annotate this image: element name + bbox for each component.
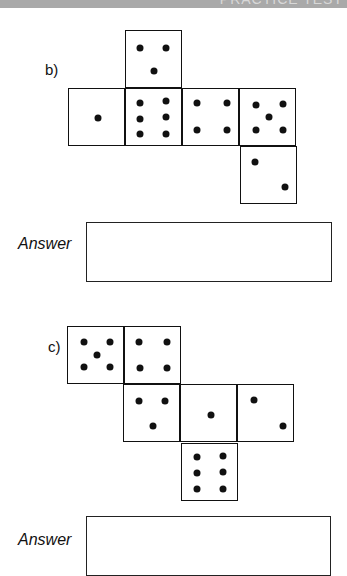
pip — [224, 100, 231, 107]
pip — [266, 114, 273, 121]
answer-label: Answer — [18, 235, 71, 253]
die-face-2 — [237, 384, 294, 442]
pip — [251, 397, 258, 404]
pip — [136, 398, 143, 405]
die-face-5 — [67, 326, 124, 384]
answer-input-b[interactable] — [86, 222, 332, 282]
pip — [194, 100, 201, 107]
pip — [208, 412, 215, 419]
die-face-3 — [123, 384, 180, 442]
pip — [220, 453, 227, 460]
die-face-6 — [125, 88, 182, 146]
pip — [107, 364, 114, 371]
question-label: c) — [48, 338, 61, 355]
die-face-4 — [124, 326, 181, 384]
pip — [194, 454, 201, 461]
pip — [137, 100, 144, 107]
die-face-5 — [239, 88, 296, 146]
pip — [95, 115, 102, 122]
pip — [252, 159, 259, 166]
die-face-3 — [125, 30, 182, 88]
pip — [163, 114, 170, 121]
pip — [194, 127, 201, 134]
page-header-band: PRACTICE TEST — [0, 0, 347, 8]
pip — [162, 398, 169, 405]
pip — [136, 339, 143, 346]
pip — [220, 486, 227, 493]
pip — [94, 352, 101, 359]
die-face-1 — [180, 384, 237, 442]
pip — [163, 45, 170, 52]
pip — [81, 339, 88, 346]
pip — [163, 98, 170, 105]
pip — [164, 339, 171, 346]
pip — [163, 131, 170, 138]
die-face-2 — [240, 146, 297, 204]
pip — [107, 339, 114, 346]
pip — [150, 423, 157, 430]
pip — [194, 486, 201, 493]
pip — [194, 470, 201, 477]
pip — [137, 365, 144, 372]
die-face-6 — [181, 443, 238, 501]
answer-input-c[interactable] — [86, 516, 331, 576]
pip — [220, 469, 227, 476]
answer-label: Answer — [18, 531, 71, 549]
header-title: PRACTICE TEST — [220, 0, 343, 7]
pip — [224, 127, 231, 134]
pip — [280, 101, 287, 108]
pip — [81, 364, 88, 371]
die-face-4 — [182, 88, 239, 146]
pip — [280, 423, 287, 430]
pip — [137, 116, 144, 123]
pip — [151, 68, 158, 75]
pip — [137, 131, 144, 138]
pip — [164, 365, 171, 372]
question-label: b) — [45, 61, 58, 78]
pip — [137, 45, 144, 52]
pip — [280, 127, 287, 134]
die-face-1 — [68, 88, 125, 146]
pip — [282, 184, 289, 191]
pip — [253, 102, 260, 109]
pip — [253, 127, 260, 134]
